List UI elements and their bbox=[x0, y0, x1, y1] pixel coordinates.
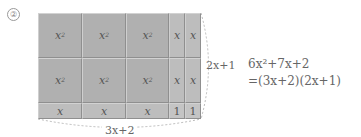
x-squared-tile: x2 bbox=[38, 58, 82, 103]
algebra-tile-grid: x2 x2 x2 x x x2 x2 x2 x x x x x 1 1 bbox=[38, 13, 201, 119]
height-label: 2x+1 bbox=[206, 59, 235, 72]
x-squared-tile: x2 bbox=[126, 58, 169, 103]
x-strip-tile: x bbox=[185, 13, 201, 58]
x-strip-tile: x bbox=[38, 103, 82, 119]
width-label: 3x+2 bbox=[102, 124, 137, 137]
equation-line-1: 6x²+7x+2 bbox=[248, 57, 309, 71]
unit-tile: 1 bbox=[185, 103, 201, 119]
x-squared-tile: x2 bbox=[126, 13, 169, 58]
x-strip-tile: x bbox=[185, 58, 201, 103]
x-squared-tile: x2 bbox=[38, 13, 82, 58]
x-squared-tile: x2 bbox=[82, 58, 126, 103]
x-strip-tile: x bbox=[169, 13, 185, 58]
unit-tile: 1 bbox=[169, 103, 185, 119]
x-strip-tile: x bbox=[126, 103, 169, 119]
x-strip-tile: x bbox=[169, 58, 185, 103]
x-squared-tile: x2 bbox=[82, 13, 126, 58]
equation-line-2: =(3x+2)(2x+1) bbox=[248, 74, 341, 88]
x-strip-tile: x bbox=[82, 103, 126, 119]
